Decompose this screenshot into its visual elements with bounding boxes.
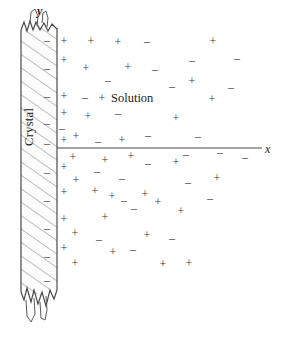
solution-label: Solution xyxy=(111,91,153,106)
ion-charge-negative: – xyxy=(115,107,121,119)
ion-charge-negative: – xyxy=(130,243,136,255)
surface-charge-minus: – xyxy=(44,194,50,206)
ion-charge-negative: – xyxy=(242,151,248,163)
crystal-label: Crystal xyxy=(22,108,37,146)
ion-charge-positive: + xyxy=(178,205,185,217)
surface-charge-minus: – xyxy=(44,117,50,129)
surface-charge-minus: – xyxy=(44,166,50,178)
ion-charge-positive: + xyxy=(119,134,126,146)
surface-charge-minus: – xyxy=(44,137,50,149)
ion-charge-positive: + xyxy=(173,112,180,124)
ion-charge-negative: – xyxy=(95,135,101,147)
ion-charge-positive: + xyxy=(144,229,151,241)
surface-charge-minus: – xyxy=(44,62,50,74)
ion-charge-positive: + xyxy=(110,246,117,258)
ion-charge-negative: – xyxy=(195,130,201,142)
ion-charge-positive: + xyxy=(61,161,68,173)
ion-charge-positive: + xyxy=(115,36,122,48)
ion-charge-positive: + xyxy=(61,107,68,119)
ion-charge-positive: + xyxy=(88,35,95,47)
ion-charge-negative: – xyxy=(82,91,88,103)
ion-charge-positive: + xyxy=(155,196,162,208)
ion-charge-negative: – xyxy=(169,232,175,244)
ion-charge-positive: + xyxy=(72,257,79,269)
y-axis-label: y xyxy=(37,4,42,19)
ion-charge-positive: + xyxy=(160,258,167,270)
ion-charge-positive: + xyxy=(61,242,68,254)
ion-charge-negative: – xyxy=(145,129,151,141)
ion-charge-positive: + xyxy=(209,93,216,105)
ion-charge-positive: + xyxy=(125,61,132,73)
ion-charge-positive: + xyxy=(210,35,217,47)
ion-charge-positive: + xyxy=(92,185,99,197)
ion-charge-negative: – xyxy=(145,157,151,169)
ion-charge-negative: – xyxy=(189,54,195,66)
ion-charge-positive: + xyxy=(61,134,68,146)
ion-charge-positive: + xyxy=(61,186,68,198)
ion-charge-negative: – xyxy=(217,146,223,158)
surface-charge-minus: – xyxy=(44,34,50,46)
ion-charge-positive: + xyxy=(61,35,68,47)
ion-charge-negative: – xyxy=(144,35,150,47)
ion-charge-negative: – xyxy=(96,233,102,245)
ion-charge-negative: – xyxy=(169,80,175,92)
ion-charge-negative: – xyxy=(185,176,191,188)
ion-charge-positive: + xyxy=(102,211,109,223)
ion-charge-positive: + xyxy=(83,62,90,74)
ion-charge-negative: – xyxy=(121,194,127,206)
x-axis-label: x xyxy=(265,142,270,157)
ion-charge-positive: + xyxy=(61,90,68,102)
surface-charge-minus: – xyxy=(44,250,50,262)
ion-charge-negative: – xyxy=(234,52,240,64)
ion-charge-positive: + xyxy=(73,174,80,186)
ion-charge-positive: + xyxy=(85,110,92,122)
surface-charge-minus: – xyxy=(44,222,50,234)
ion-charge-positive: + xyxy=(109,190,116,202)
ion-charge-positive: + xyxy=(102,154,109,166)
ion-charge-positive: + xyxy=(70,151,77,163)
ion-charge-negative: – xyxy=(94,165,100,177)
ion-charge-positive: + xyxy=(128,150,135,162)
ion-charge-positive: + xyxy=(61,213,68,225)
ion-charge-positive: + xyxy=(173,156,180,168)
ion-charge-positive: + xyxy=(61,54,68,66)
ion-charge-positive: + xyxy=(214,172,221,184)
crystal-bar xyxy=(21,9,57,322)
ion-charge-positive: + xyxy=(72,227,79,239)
ion-charge-negative: – xyxy=(228,81,234,93)
crystal-solution-diagram: y x Crystal Solution –––––––––– +++–+––+… xyxy=(0,0,281,337)
ion-charge-positive: + xyxy=(99,92,106,104)
ion-charge-negative: – xyxy=(152,63,158,75)
ion-charge-positive: + xyxy=(189,75,196,87)
ion-charge-negative: – xyxy=(105,74,111,86)
ion-charge-negative: – xyxy=(131,202,137,214)
ion-charge-negative: – xyxy=(183,148,189,160)
ion-charge-positive: + xyxy=(142,188,149,200)
ion-charge-positive: + xyxy=(73,130,80,142)
surface-charge-minus: – xyxy=(44,274,50,286)
ion-charge-negative: – xyxy=(119,172,125,184)
ion-charge-negative: – xyxy=(207,192,213,204)
ion-charge-positive: + xyxy=(186,257,193,269)
surface-charge-minus: – xyxy=(44,90,50,102)
